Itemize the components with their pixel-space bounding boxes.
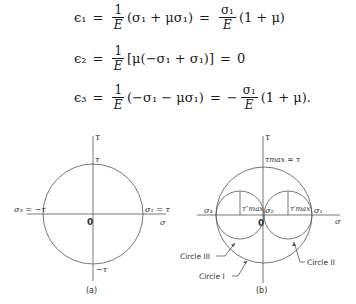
circle-2-arrow-icon bbox=[292, 242, 296, 246]
figure-a-top-label: τ bbox=[95, 155, 100, 164]
figure-b-sigma2-label: σ₂ bbox=[265, 206, 274, 215]
figure-b-sigma1-label: σ₁ bbox=[314, 206, 323, 215]
circle-3-arrow-icon bbox=[231, 243, 235, 247]
figure-b-top-label: τmax = τ bbox=[265, 155, 301, 164]
circle-2-leader bbox=[294, 242, 305, 262]
figure-a-sigma-axis-label: σ bbox=[160, 218, 166, 227]
mohr-circle-figures: τ τ σ 0 σ₃ = −τ σ₁ = τ −τ (a) τ τmax = τ… bbox=[0, 0, 356, 304]
figure-b-sigma3-label: σ₃ bbox=[204, 206, 213, 215]
figure-b-sigma-axis-label: σ bbox=[335, 217, 341, 226]
figure-a-bottom-label: −τ bbox=[96, 265, 108, 274]
figure-b-origin-label: 0 bbox=[258, 218, 264, 228]
figure-b-tau-max-d-label: τ′max bbox=[290, 205, 310, 213]
figure-b-tau-axis-label: τ bbox=[265, 132, 271, 142]
figure-b-circle-2-label: Circle II bbox=[307, 258, 335, 267]
circle-1-arrow-icon bbox=[243, 261, 247, 264]
figure-b-tau-max-dd-label: τ″max bbox=[242, 205, 263, 213]
figure-a-origin-label: 0 bbox=[87, 217, 93, 227]
figure-a-tau-axis-label: τ bbox=[95, 132, 101, 142]
figure-a-left-label: σ₃ = −τ bbox=[14, 205, 46, 214]
circle-1-leader bbox=[232, 261, 247, 276]
figure-a-right-label: σ₁ = τ bbox=[145, 205, 170, 214]
figure-b-caption: (b) bbox=[256, 286, 267, 295]
figure-a-caption: (a) bbox=[86, 286, 97, 295]
figure-b-circle-3-label: Circle III bbox=[180, 252, 210, 261]
figure-b-circle-1-label: Circle I bbox=[199, 272, 225, 281]
